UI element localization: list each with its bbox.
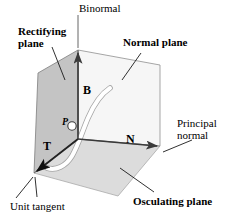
binormal-vector-label: B	[83, 84, 91, 97]
normal-plane-label: Normal plane	[123, 37, 187, 49]
binormal-label: Binormal	[79, 3, 121, 15]
point-p-label: P	[62, 117, 68, 128]
principal-normal-leader-line	[163, 140, 192, 152]
unit-tangent-label: Unit tangent	[10, 201, 65, 213]
unit-tangent-leader-line-b	[35, 177, 37, 197]
normal-plane-surface	[78, 50, 160, 146]
normal-vector-label: N	[126, 133, 135, 146]
figure-canvas: Binormal Rectifying plane Normal plane P…	[0, 0, 229, 222]
unit-tangent-leader-line-a	[16, 177, 33, 198]
osculating-plane-label: Osculating plane	[133, 196, 212, 208]
tangent-vector-label: T	[43, 140, 51, 153]
principal-normal-label: Principal normal	[177, 118, 217, 142]
point-p-marker	[68, 122, 76, 130]
rectifying-plane-label: Rectifying plane	[18, 26, 66, 50]
